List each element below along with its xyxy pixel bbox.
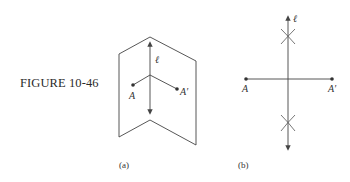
label-l: ℓ: [155, 54, 159, 65]
segment-A: [133, 75, 150, 85]
label-l: ℓ: [293, 13, 297, 24]
plane-left-face: [119, 37, 150, 137]
point-A-prime: [175, 87, 179, 91]
caption-a: (a): [119, 160, 129, 170]
point-A: [244, 77, 248, 81]
segment-A-prime: [150, 75, 177, 89]
point-A-prime: [330, 77, 334, 81]
panel-b: ℓ A A′ (b): [238, 13, 337, 170]
caption-b: (b): [238, 160, 249, 170]
point-A: [131, 83, 135, 87]
label-A-prime: A′: [179, 86, 189, 97]
panel-a: ℓ A A′ (a): [119, 37, 196, 170]
label-A: A: [128, 90, 136, 101]
label-A: A: [241, 83, 249, 94]
label-A-prime: A′: [327, 83, 337, 94]
figure-canvas: ℓ A A′ (a) ℓ A A′ (b): [0, 0, 350, 182]
